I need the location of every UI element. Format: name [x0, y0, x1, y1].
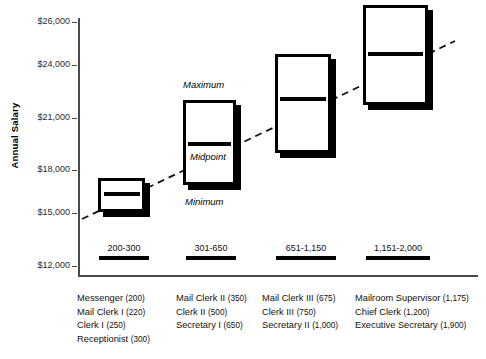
job-list-item: Receptionist (300) — [77, 333, 150, 347]
y-tick-mark-icon — [72, 65, 77, 67]
job-title: Chief Clerk — [355, 307, 401, 317]
job-title: Clerk II — [176, 307, 205, 317]
job-list-item: Chief Clerk (1,200) — [355, 306, 469, 320]
job-points: (1,900) — [440, 321, 466, 330]
job-list-item: Secretary I (650) — [176, 319, 247, 333]
x-axis-line — [78, 275, 478, 277]
point-range-underline — [366, 256, 430, 260]
job-points: (650) — [224, 321, 243, 330]
y-tick-mark-icon — [72, 213, 77, 215]
point-range-label-1: 200-300 — [85, 243, 163, 260]
point-range-text: 1,151-2,000 — [352, 243, 444, 254]
y-tick-label: $26,000 — [18, 16, 70, 26]
job-title: Clerk I — [77, 320, 104, 330]
point-range-label-3: 651-1,150 — [262, 243, 350, 260]
midpoint-line-1151-2000 — [368, 52, 423, 56]
job-points: (750) — [297, 308, 316, 317]
job-title: Secretary I — [176, 320, 221, 330]
point-range-text: 301-650 — [172, 243, 250, 254]
midpoint-line-301-650 — [188, 142, 231, 146]
job-points: (500) — [208, 308, 227, 317]
point-range-text: 200-300 — [85, 243, 163, 254]
job-title: Mailroom Supervisor — [355, 293, 440, 303]
job-title: Receptionist — [77, 334, 128, 344]
job-points: (675) — [316, 294, 335, 303]
y-tick-mark-icon — [72, 266, 77, 268]
job-list-item: Executive Secretary (1,900) — [355, 319, 469, 333]
job-column-301-650: Mail Clerk II (350) Clerk II (500) Secre… — [176, 292, 247, 333]
job-list-item: Mail Clerk I (220) — [77, 306, 150, 320]
y-tick-mark-icon — [72, 22, 77, 24]
job-title: Mail Clerk III — [262, 293, 314, 303]
callout-midpoint: Midpoint — [190, 151, 226, 162]
y-tick-mark-icon — [72, 118, 77, 120]
point-range-underline — [99, 256, 149, 260]
callout-minimum: Minimum — [185, 196, 224, 207]
point-range-underline — [186, 256, 236, 260]
job-column-200-300: Messenger (200) Mail Clerk I (220) Clerk… — [77, 292, 150, 346]
y-tick-mark-icon — [72, 170, 77, 172]
y-tick-label: $12,000 — [18, 260, 70, 270]
job-points: (1,000) — [312, 321, 338, 330]
callout-maximum: Maximum — [183, 79, 224, 90]
job-title: Secretary II — [262, 320, 310, 330]
job-points: (350) — [228, 294, 247, 303]
y-tick-label: $15,000 — [18, 207, 70, 217]
job-column-651-1150: Mail Clerk III (675) Clerk III (750) Sec… — [262, 292, 338, 333]
range-bar-651-1150 — [275, 54, 331, 153]
y-axis-title: Annual Salary — [9, 76, 20, 196]
y-tick-label: $18,000 — [18, 164, 70, 174]
job-list-item: Clerk I (250) — [77, 319, 150, 333]
job-list-item: Mail Clerk III (675) — [262, 292, 338, 306]
y-tick-label: $24,000 — [18, 59, 70, 69]
job-title: Clerk III — [262, 307, 294, 317]
salary-structure-chart: Annual Salary $26,000 $24,000 $21,000 $1… — [0, 0, 486, 359]
job-points: (220) — [126, 308, 145, 317]
y-tick-label: $21,000 — [18, 112, 70, 122]
job-points: (1,175) — [443, 294, 469, 303]
job-list-item: Mailroom Supervisor (1,175) — [355, 292, 469, 306]
job-list-item: Clerk II (500) — [176, 306, 247, 320]
point-range-underline — [276, 256, 336, 260]
midpoint-line-651-1150 — [280, 97, 326, 101]
job-points: (1,200) — [404, 308, 430, 317]
job-column-1151-2000: Mailroom Supervisor (1,175) Chief Clerk … — [355, 292, 469, 333]
point-range-text: 651-1,150 — [262, 243, 350, 254]
job-title: Mail Clerk II — [176, 293, 225, 303]
job-list-item: Clerk III (750) — [262, 306, 338, 320]
job-title: Executive Secretary — [355, 320, 438, 330]
job-points: (200) — [126, 294, 145, 303]
job-points: (300) — [131, 335, 150, 344]
job-list-item: Mail Clerk II (350) — [176, 292, 247, 306]
job-title: Mail Clerk I — [77, 307, 124, 317]
y-axis-line — [78, 18, 80, 276]
point-range-label-4: 1,151-2,000 — [352, 243, 444, 260]
job-points: (250) — [106, 321, 125, 330]
job-list-item: Messenger (200) — [77, 292, 150, 306]
job-list-item: Secretary II (1,000) — [262, 319, 338, 333]
point-range-label-2: 301-650 — [172, 243, 250, 260]
midpoint-line-200-300 — [104, 192, 140, 196]
job-title: Messenger — [77, 293, 123, 303]
